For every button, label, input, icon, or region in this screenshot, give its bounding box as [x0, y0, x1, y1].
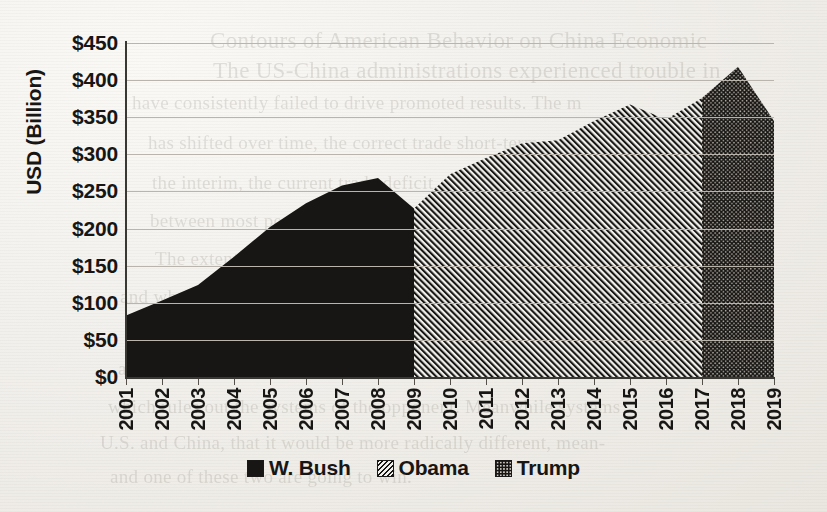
legend-swatch-dot-icon — [495, 460, 512, 477]
gridline — [126, 154, 774, 155]
x-tick-mark — [306, 379, 307, 385]
y-tick-label: $100 — [32, 291, 118, 315]
x-tick-label: 2006 — [299, 388, 313, 431]
y-tick-label: $0 — [32, 365, 118, 389]
legend-label: Trump — [517, 456, 580, 480]
x-tick-label: 2012 — [515, 388, 529, 431]
legend-swatch-hatch-icon — [377, 460, 394, 477]
x-tick-label: 2007 — [335, 388, 349, 431]
x-tick-label: 2004 — [227, 388, 241, 431]
gridline — [126, 340, 774, 341]
x-tick-label: 2014 — [587, 388, 601, 431]
gridline — [126, 191, 774, 192]
series-area-obama — [414, 98, 702, 377]
x-tick-mark — [126, 379, 127, 385]
x-tick-mark — [630, 379, 631, 385]
chart-legend: W. BushObamaTrump — [0, 456, 827, 480]
gridline — [126, 229, 774, 230]
x-tick-mark — [450, 379, 451, 385]
legend-swatch-solid-icon — [247, 460, 264, 477]
x-tick-label: 2017 — [695, 388, 709, 431]
series-area-trump — [702, 67, 774, 377]
gridline — [126, 43, 774, 44]
x-tick-mark — [558, 379, 559, 385]
y-axis-title: USD (Billion) — [22, 32, 46, 232]
legend-item-w-bush[interactable]: W. Bush — [247, 456, 350, 480]
legend-label: W. Bush — [269, 456, 350, 480]
x-tick-mark — [774, 379, 775, 385]
x-tick-label: 2009 — [407, 388, 421, 431]
legend-item-obama[interactable]: Obama — [377, 456, 469, 480]
y-tick-label: $150 — [32, 254, 118, 278]
x-tick-label: 2005 — [263, 388, 277, 431]
x-tick-mark — [198, 379, 199, 385]
gridline — [126, 266, 774, 267]
x-tick-mark — [486, 379, 487, 385]
gridline — [126, 117, 774, 118]
legend-item-trump[interactable]: Trump — [495, 456, 580, 480]
x-tick-mark — [270, 379, 271, 385]
x-tick-mark — [234, 379, 235, 385]
x-tick-mark — [666, 379, 667, 385]
x-tick-mark — [342, 379, 343, 385]
gridline — [126, 80, 774, 81]
area-chart: $0$50$100$150$200$250$300$350$400$450 US… — [0, 0, 827, 512]
x-tick-mark — [414, 379, 415, 385]
x-tick-mark — [702, 379, 703, 385]
x-tick-label: 2001 — [119, 388, 133, 431]
x-tick-label: 2016 — [659, 388, 673, 431]
x-tick-label: 2019 — [767, 388, 781, 431]
y-axis-line — [125, 41, 127, 379]
series-layer — [126, 43, 774, 377]
x-tick-label: 2011 — [479, 388, 493, 429]
x-tick-label: 2018 — [731, 388, 745, 431]
series-area-w-bush — [126, 178, 414, 377]
x-tick-mark — [378, 379, 379, 385]
x-tick-label: 2015 — [623, 388, 637, 431]
x-tick-mark — [522, 379, 523, 385]
x-tick-label: 2010 — [443, 388, 457, 431]
legend-label: Obama — [399, 456, 469, 480]
x-tick-label: 2002 — [155, 388, 169, 431]
x-tick-label: 2008 — [371, 388, 385, 431]
y-tick-label: $50 — [32, 328, 118, 352]
plot-area — [126, 43, 774, 377]
x-tick-label: 2013 — [551, 388, 565, 431]
gridline — [126, 303, 774, 304]
x-tick-mark — [738, 379, 739, 385]
x-tick-label: 2003 — [191, 388, 205, 431]
x-tick-mark — [594, 379, 595, 385]
x-tick-mark — [162, 379, 163, 385]
